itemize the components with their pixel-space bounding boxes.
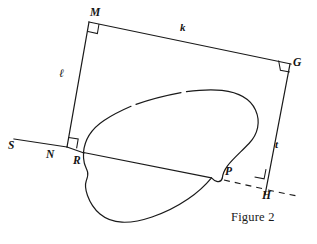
segment-SN-ray <box>14 139 67 147</box>
vertex-label-P: P <box>225 166 232 178</box>
segment-PH <box>224 180 264 189</box>
region-edge-lower <box>83 153 211 223</box>
region-edge-cusp-P <box>212 178 223 182</box>
vertex-label-G: G <box>293 57 301 69</box>
side-label-k: k <box>180 22 186 33</box>
vertex-label-S: S <box>8 140 14 152</box>
segment-GH <box>265 64 290 195</box>
segment-H-extension <box>268 190 297 196</box>
region-edge-upper-right <box>187 90 259 178</box>
dashed-foot-line-PH <box>224 180 297 196</box>
region-edge-upper-mid <box>136 93 181 105</box>
side-label-t: t <box>275 139 278 150</box>
right-angle-marker-M <box>88 24 99 34</box>
vertex-label-R: R <box>73 155 81 167</box>
figure-caption: Figure 2 <box>231 210 275 225</box>
vertex-label-N: N <box>46 149 54 161</box>
vertex-label-M: M <box>90 7 100 19</box>
segment-MN <box>67 22 89 147</box>
side-label-l: ℓ <box>59 68 64 80</box>
segment-NR <box>67 147 84 153</box>
segment-MG <box>89 22 291 64</box>
irregular-region-outline <box>83 90 258 222</box>
region-edge-upper-left <box>84 106 132 152</box>
quadrilateral-edges <box>67 22 291 195</box>
geometry-diagram <box>0 0 317 244</box>
vertex-label-H: H <box>262 190 271 202</box>
figure-canvas: M G N H R P S k ℓ t Figure 2 <box>0 0 317 244</box>
right-angle-marker-N <box>69 137 79 148</box>
right-angle-marker-H <box>255 169 266 179</box>
